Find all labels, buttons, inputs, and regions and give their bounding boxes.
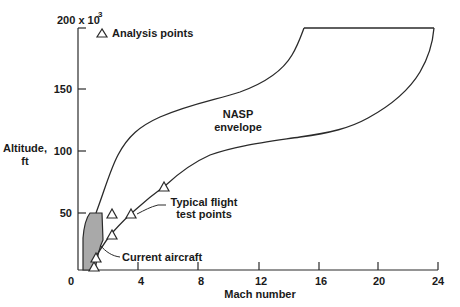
x-tick-label-16: 16	[315, 275, 327, 287]
legend-triangle-icon	[97, 29, 107, 37]
x-tick-label-12: 12	[255, 275, 267, 287]
y-tick-label-150: 150	[54, 83, 72, 95]
triangle-marker	[107, 230, 117, 239]
legend: Analysis points	[97, 27, 193, 39]
nasp-label-line1: NASP	[223, 108, 254, 120]
y-axis-title-line2: ft	[21, 155, 29, 167]
y-tick-label-50: 50	[60, 207, 72, 219]
y-top-label: 200 x 10	[57, 14, 100, 26]
triangle-marker	[107, 209, 117, 218]
legend-label: Analysis points	[112, 27, 193, 39]
x-tick-label-24: 24	[432, 275, 445, 287]
chart: Analysis points NASP envelope Typical fl…	[0, 0, 460, 307]
x-tick-label-20: 20	[373, 275, 385, 287]
flight-test-label-line2: test points	[176, 208, 232, 220]
x-tick-label-8: 8	[198, 275, 204, 287]
flight-test-label-line1: Typical flight	[170, 196, 237, 208]
nasp-envelope	[95, 28, 434, 258]
envelope-lower-boundary	[95, 28, 434, 258]
axes	[78, 28, 438, 270]
envelope-upper-boundary	[96, 28, 304, 213]
current-aircraft-leader	[100, 245, 120, 257]
x-tick-label-4: 4	[138, 275, 145, 287]
y-top-exponent: 3	[98, 10, 103, 19]
x-axis-title: Mach number	[224, 288, 296, 300]
x-tick-label-0: 0	[68, 275, 74, 287]
flight-test-leader	[137, 205, 166, 214]
nasp-label-line2: envelope	[214, 121, 262, 133]
current-aircraft-label: Current aircraft	[122, 251, 202, 263]
y-tick-label-100: 100	[54, 145, 72, 157]
y-axis-title-line1: Altitude,	[3, 142, 47, 154]
